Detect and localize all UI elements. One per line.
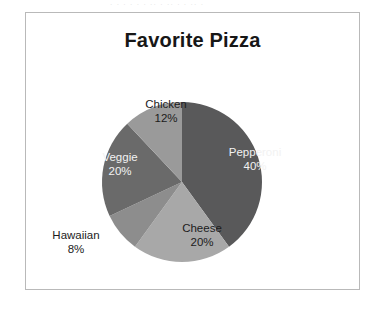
slice-label-chicken: Chicken 12% [123,98,209,125]
slice-label-chicken-percent: 12% [123,112,209,126]
slice-label-chicken-name: Chicken [123,98,209,112]
slice-label-pepperoni: Pepperoni 40% [212,146,298,173]
slice-label-veggie-name: Veggie [82,151,158,165]
scan-artifact-text: · · · · · · ·· · ·· · · ·· · [110,0,378,9]
slice-label-pepperoni-name: Pepperoni [212,146,298,160]
slice-label-hawaiian-percent: 8% [33,243,119,257]
chart-panel: Favorite Pizza Pepperoni 40% Cheese 20% … [25,12,360,290]
slice-label-hawaiian-name: Hawaiian [33,229,119,243]
slice-label-pepperoni-percent: 40% [212,160,298,174]
slice-label-cheese-name: Cheese [159,222,245,236]
slice-label-cheese: Cheese 20% [159,222,245,249]
slice-label-cheese-percent: 20% [159,236,245,250]
slice-label-veggie-percent: 20% [82,165,158,179]
pie-chart: Pepperoni 40% Cheese 20% Hawaiian 8% Veg… [26,13,361,291]
slice-label-veggie: Veggie 20% [82,151,158,178]
slice-label-hawaiian: Hawaiian 8% [33,229,119,256]
